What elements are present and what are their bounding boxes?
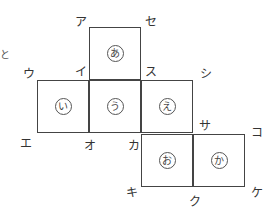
face-o: お (141, 134, 193, 187)
face-label-i: い (55, 98, 72, 115)
vertex-label-u: ウ (23, 68, 35, 80)
face-a: あ (89, 27, 141, 80)
face-ka: か (193, 134, 245, 187)
face-i: い (37, 80, 89, 133)
vertex-label-ke: ケ (251, 187, 263, 199)
vertex-label-o: オ (84, 140, 96, 152)
vertex-label-ka-vertex: カ (128, 140, 140, 152)
vertex-label-se: セ (145, 16, 157, 28)
vertex-label-shi: シ (200, 68, 212, 80)
face-label-u: う (107, 98, 124, 115)
vertex-label-su: ス (145, 66, 157, 78)
vertex-label-e: エ (20, 138, 32, 150)
vertex-label-i: イ (75, 66, 87, 78)
vertex-label-ku: ク (189, 196, 201, 208)
vertex-label-a: ア (75, 16, 87, 28)
face-label-ka: か (211, 152, 228, 169)
face-label-a: あ (107, 45, 124, 62)
face-e: え (141, 80, 193, 133)
face-label-o: お (159, 152, 176, 169)
cube-net-diagram: と あ い う え お か ア セ イ ス ウ シ エ オ カ サ コ キ ク … (0, 0, 279, 221)
vertex-label-ki: キ (126, 187, 138, 199)
vertex-label-ko: コ (251, 127, 263, 139)
face-u: う (89, 80, 141, 133)
vertex-label-sa: サ (199, 120, 211, 132)
cropped-text-fragment: と (0, 46, 10, 61)
face-label-e: え (159, 98, 176, 115)
